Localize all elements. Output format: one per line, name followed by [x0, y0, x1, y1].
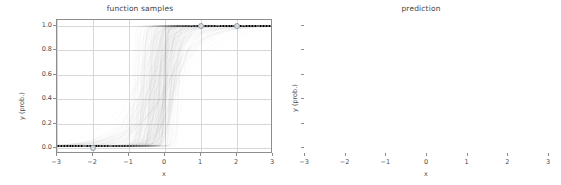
x-tick-mark — [128, 153, 129, 156]
x-tick-mark — [164, 153, 165, 156]
x-tick-mark — [92, 153, 93, 156]
x-tick-label: 3 — [546, 158, 550, 166]
x-tick-label: −2 — [340, 158, 350, 166]
x-tick-label: −3 — [51, 158, 61, 166]
x-tick-label: 2 — [505, 158, 509, 166]
y-tick-mark — [301, 25, 304, 26]
x-tick-mark — [200, 153, 201, 156]
data-point-marker — [234, 23, 240, 29]
y-tick-label: 0.6 — [30, 70, 52, 78]
y-tick-label: 0.0 — [30, 143, 52, 151]
x-tick-mark — [272, 153, 273, 156]
x-tick-label: 2 — [234, 158, 238, 166]
x-tick-mark — [236, 153, 237, 156]
x-tick-mark — [467, 153, 468, 156]
x-tick-label: 3 — [270, 158, 274, 166]
panel-title-right: prediction — [281, 4, 561, 13]
y-tick-mark — [53, 49, 56, 50]
y-axis-label-left: y (prob.) — [18, 92, 26, 120]
y-tick-mark — [301, 123, 304, 124]
x-tick-mark — [426, 153, 427, 156]
panel-function-samples: function samples −3−2−101230.00.20.40.60… — [0, 0, 280, 185]
y-tick-mark — [53, 74, 56, 75]
x-tick-mark — [548, 153, 549, 156]
y-tick-label: 0.8 — [30, 45, 52, 53]
x-tick-mark — [507, 153, 508, 156]
y-tick-mark — [53, 25, 56, 26]
y-tick-mark — [53, 147, 56, 148]
x-tick-mark — [56, 153, 57, 156]
x-tick-label: 0 — [424, 158, 428, 166]
y-tick-label: 1.0 — [30, 21, 52, 29]
y-tick-mark — [53, 98, 56, 99]
x-tick-label: 1 — [465, 158, 469, 166]
y-tick-label: 0.4 — [30, 94, 52, 102]
x-tick-mark — [385, 153, 386, 156]
x-tick-label: 1 — [198, 158, 202, 166]
x-tick-label: −1 — [123, 158, 133, 166]
x-axis-label-right: x — [424, 170, 428, 178]
function-samples-curves — [57, 20, 271, 152]
x-tick-mark — [345, 153, 346, 156]
y-tick-mark — [301, 49, 304, 50]
data-point-marker — [90, 145, 96, 151]
panel-title-left: function samples — [0, 4, 280, 13]
y-axis-label-right: y (prob.) — [291, 84, 299, 112]
x-tick-mark — [304, 153, 305, 156]
y-tick-mark — [53, 123, 56, 124]
y-tick-mark — [301, 98, 304, 99]
panel-prediction: prediction prediction data −3−2−10123 x … — [281, 0, 561, 185]
y-tick-mark — [301, 147, 304, 148]
x-tick-label: −3 — [299, 158, 309, 166]
data-point-marker — [198, 23, 204, 29]
x-axis-label-left: x — [162, 170, 166, 178]
x-tick-label: −1 — [381, 158, 391, 166]
y-tick-label: 0.2 — [30, 119, 52, 127]
plot-area-function-samples — [56, 19, 272, 153]
figure-canvas: function samples −3−2−101230.00.20.40.60… — [0, 0, 561, 185]
y-tick-mark — [301, 74, 304, 75]
x-tick-label: −2 — [87, 158, 97, 166]
x-tick-label: 0 — [162, 158, 166, 166]
